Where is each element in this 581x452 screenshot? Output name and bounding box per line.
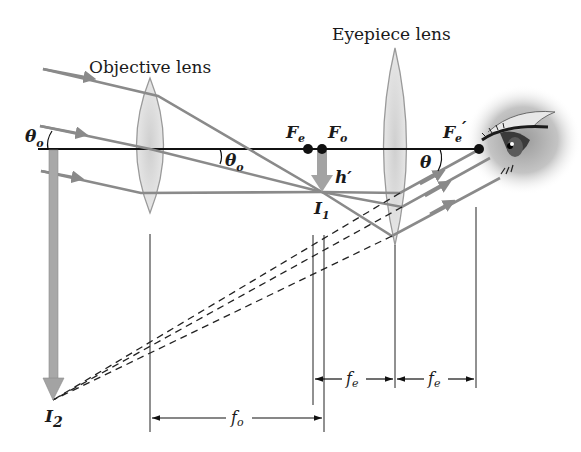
theta-o-arc-lens [220, 149, 222, 164]
fo-label: Fo [327, 122, 347, 145]
eye-illustration [465, 85, 581, 195]
objective-rays [40, 69, 322, 193]
focal-point-fo [317, 144, 327, 154]
eyepiece-lens-label: Eyepiece lens [332, 24, 451, 44]
objective-lens-label: Objective lens [89, 57, 211, 77]
h-prime-label: h′ [335, 167, 352, 187]
fo-dimension-label: fo [230, 408, 244, 429]
image-i2-arrow [43, 150, 64, 400]
focal-point-fe [303, 144, 313, 154]
theta-arc-eye [438, 149, 442, 171]
telescope-ray-diagram: Objective lens Eyepiece lens θo θo θ Fe … [0, 0, 581, 452]
image-i1-arrow [311, 151, 333, 192]
focal-point-fe-prime [474, 144, 484, 154]
theta-eye-label: θ [420, 152, 432, 172]
fe-left-dimension-label: fe [345, 369, 359, 390]
theta-o-arc-left [48, 131, 53, 149]
fe-label: Fe [285, 122, 305, 145]
fe-right-dimension-label: fe [427, 369, 441, 390]
i1-label: I1 [313, 198, 330, 222]
theta-o-incoming-label: θo [25, 126, 44, 150]
i2-label: I2 [44, 406, 63, 430]
fe-prime-label: Fe′ [442, 117, 467, 145]
